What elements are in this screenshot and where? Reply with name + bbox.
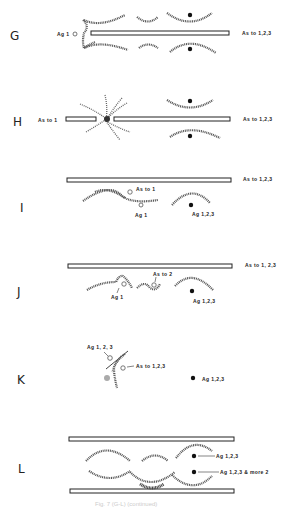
arc — [170, 130, 220, 138]
panel-letter-l: L — [18, 462, 25, 476]
label-ag: Ag 1 — [111, 294, 123, 300]
filled-dot-icon — [189, 203, 193, 207]
panel-j: J As to 1, 2,3 Ag 1 As to 2 Ag 1,2,3 — [16, 262, 276, 304]
panel-letter-k: K — [17, 373, 26, 387]
dense-cluster — [140, 484, 164, 488]
arc — [172, 475, 212, 485]
open-circle-icon — [73, 32, 77, 36]
arc — [139, 45, 158, 49]
panel-letter-h: H — [13, 115, 22, 129]
arc — [95, 190, 125, 198]
label-as-left: As to 1 — [38, 117, 57, 123]
label-as: As to 1 — [136, 186, 155, 192]
label-as-right: As to 1,2,3 — [243, 116, 272, 122]
arc — [142, 456, 168, 462]
filled-dot-icon — [192, 454, 196, 458]
grey-dot-icon — [104, 375, 110, 381]
burst-line — [106, 121, 120, 140]
filled-dot-icon — [191, 376, 195, 380]
burst-line — [107, 98, 122, 119]
arc — [137, 17, 158, 22]
label-ag: Ag 1 — [57, 31, 69, 37]
label-ag-dot: Ag 1,2,3 — [202, 376, 224, 382]
filled-dot-icon — [188, 134, 192, 138]
arc — [130, 472, 175, 482]
panel-k: K Ag 1, 2, 3 As to 1,2,3 Ag 1,2,3 — [17, 344, 224, 388]
label-ag-dot: Ag 1,2,3 — [192, 211, 214, 217]
panel-i: I As to 1,2,3 As to 1 Ag 1 Ag 1,2,3 — [20, 176, 272, 218]
label-ag: Ag 1 — [135, 212, 147, 218]
panel-g: G Ag 1 As to 1,2,3 — [10, 13, 271, 53]
open-circle-icon — [122, 282, 126, 286]
filled-dot-icon — [192, 470, 196, 474]
leader-line — [155, 277, 156, 282]
panel-letter-g: G — [10, 29, 19, 43]
rod-left — [66, 117, 96, 121]
filled-dot-icon — [188, 47, 192, 51]
leader-line — [117, 288, 119, 293]
label-as-right: As to 1,2,3 — [242, 30, 271, 36]
open-circle-icon — [108, 356, 113, 361]
rod — [68, 264, 232, 268]
rod — [67, 178, 231, 182]
burst-center — [104, 116, 110, 122]
label-ag-dot: Ag 1,2,3 — [193, 298, 215, 304]
rod-right — [114, 117, 230, 121]
label-as-right: As to 1, 2,3 — [245, 262, 276, 268]
panel-h: H As to 1 As to 1,2,3 — [13, 95, 272, 140]
open-circle-icon — [152, 283, 156, 287]
arc — [175, 278, 213, 290]
open-circle-icon — [121, 366, 125, 370]
open-circle-icon — [139, 203, 143, 207]
arc — [89, 471, 130, 478]
panel-letter-j: J — [16, 285, 21, 299]
leader-line — [127, 366, 134, 367]
label-ag-top: Ag 1, 2, 3 — [87, 344, 113, 350]
figure-caption: Fig. 7 (G-L) (continued) — [95, 501, 157, 507]
arc — [170, 44, 216, 53]
rod-bottom — [70, 489, 234, 493]
diagram-canvas: G Ag 1 As to 1,2,3 H As to 1 As to 1,2,3 — [0, 0, 289, 510]
arc — [86, 451, 130, 462]
label-as: As to 2 — [153, 271, 172, 277]
label-ag-bottom: Ag 1,2,3 & more 2 — [220, 469, 269, 475]
filled-dot-icon — [188, 99, 192, 103]
panel-l: L Ag 1,2,3 Ag 1,2,3 & more 2 — [18, 437, 269, 493]
rod-top — [69, 437, 234, 441]
panel-letter-i: I — [20, 201, 24, 215]
label-ag-top: Ag 1,2,3 — [216, 453, 238, 459]
label-as: As to 1,2,3 — [136, 363, 165, 369]
rod — [91, 31, 229, 35]
arc — [114, 354, 125, 388]
arc — [84, 15, 125, 23]
filled-dot-icon — [188, 13, 192, 17]
open-circle-icon — [128, 190, 132, 194]
label-as-right: As to 1,2,3 — [243, 176, 272, 182]
filled-dot-icon — [190, 289, 194, 293]
